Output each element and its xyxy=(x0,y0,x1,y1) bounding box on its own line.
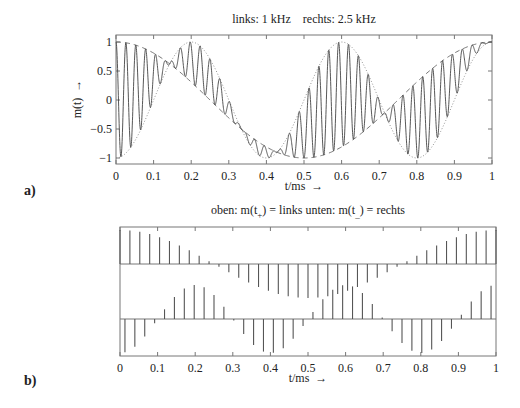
plot-a-ytick-label: 0.5 xyxy=(97,64,112,78)
plot-b-xtick-label: 0.9 xyxy=(451,361,466,375)
plot-a-xtick-label: 0 xyxy=(113,169,119,183)
plot-a-xtick-label: 0.2 xyxy=(184,169,199,183)
plot-a-ticks: 00.10.20.30.40.50.60.70.80.9110.50−0.5−1 xyxy=(90,35,495,183)
plot-a-xtick-label: 0.1 xyxy=(146,169,161,183)
plot-b-xtick-label: 0 xyxy=(117,361,123,375)
plot-b-stems xyxy=(120,230,496,353)
plot-b-title: oben: m(t+) = links unten: m(t_) = recht… xyxy=(211,203,405,220)
plot-a: links: 1 kHz rechts: 2.5 kHz 00.10.20.30… xyxy=(70,12,495,193)
plot-b-xtick-label: 0.1 xyxy=(150,361,165,375)
plot-b-xtick-label: 0.7 xyxy=(376,361,391,375)
figure: links: 1 kHz rechts: 2.5 kHz 00.10.20.30… xyxy=(0,0,520,408)
plot-a-xtick-label: 0.9 xyxy=(447,169,462,183)
plot-a-xtick-label: 0.4 xyxy=(259,169,274,183)
plot-b-xtick-label: 0.2 xyxy=(188,361,203,375)
plot-a-xtick-label: 0.3 xyxy=(221,169,236,183)
plot-b-xtick-label: 0.4 xyxy=(263,361,278,375)
plot-a-frame xyxy=(116,35,492,164)
plot-a-ylabel: m(t) → xyxy=(70,80,84,119)
panel-label-a: a) xyxy=(24,183,36,199)
plot-a-title: links: 1 kHz rechts: 2.5 kHz xyxy=(232,12,376,26)
plot-a-ytick-label: 1 xyxy=(106,35,112,49)
plot-a-rechts-curve xyxy=(116,42,492,158)
plot-a-xlabel: t/ms → xyxy=(285,179,324,193)
plot-a-ytick-label: −1 xyxy=(99,151,112,165)
plot-a-xtick-label: 0.7 xyxy=(372,169,387,183)
plot-a-xtick-label: 0.6 xyxy=(334,169,349,183)
plot-a-ytick-label: −0.5 xyxy=(90,122,112,136)
panel-label-b: b) xyxy=(24,373,36,389)
plot-a-ytick-label: 0 xyxy=(106,93,112,107)
plot-b: oben: m(t+) = links unten: m(t_) = recht… xyxy=(117,203,499,385)
plot-b-xtick-label: 0.8 xyxy=(413,361,428,375)
plot-b-xlabel: t/ms → xyxy=(289,371,328,385)
plot-b-xtick-label: 0.6 xyxy=(338,361,353,375)
plot-b-xtick-label: 0.3 xyxy=(225,361,240,375)
plot-a-xtick-label: 0.8 xyxy=(409,169,424,183)
plot-b-xtick-label: 1 xyxy=(493,361,499,375)
plot-a-xtick-label: 1 xyxy=(489,169,495,183)
